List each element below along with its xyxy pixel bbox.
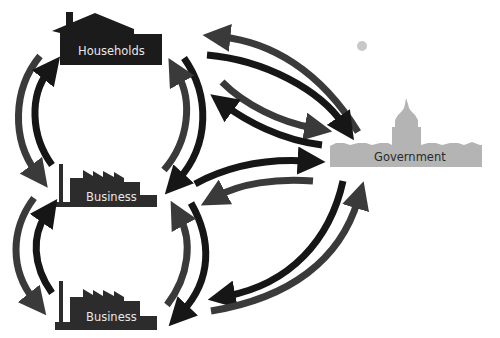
flow-arrow <box>227 181 343 296</box>
circular-flow-diagram <box>0 0 500 338</box>
flow-arrow <box>218 180 313 196</box>
flow-arrow <box>36 215 52 293</box>
decorative-dot <box>357 41 367 51</box>
households-label: Households <box>78 44 145 58</box>
flow-arrow <box>35 72 52 165</box>
flow-arrow <box>164 75 187 170</box>
business-bottom-label: Business <box>86 310 137 324</box>
flow-arrow <box>167 218 187 305</box>
government-label: Government <box>374 150 446 164</box>
flow-arrow <box>16 198 34 300</box>
business-top-label: Business <box>86 190 137 204</box>
